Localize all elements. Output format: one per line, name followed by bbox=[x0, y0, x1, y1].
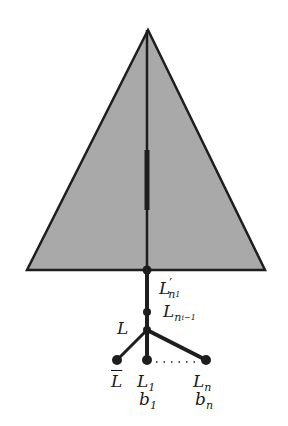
label-b-n: bn bbox=[195, 391, 213, 408]
label-L-1: L1 bbox=[137, 373, 155, 390]
edge-to-L-n bbox=[147, 330, 206, 360]
label-b-1: b1 bbox=[139, 391, 157, 408]
label-L: L bbox=[117, 320, 128, 337]
node-L-ni-minus-1 bbox=[143, 308, 151, 316]
node-base bbox=[143, 266, 152, 275]
node-L-bar bbox=[112, 355, 122, 365]
label-L-ni-minus-1: Lni−1 bbox=[163, 303, 196, 320]
node-L-1 bbox=[142, 355, 152, 365]
node-L bbox=[143, 326, 151, 334]
label-L-n: Ln bbox=[193, 373, 211, 390]
node-L-n bbox=[201, 355, 211, 365]
label-L-prime-n1: L′n1 bbox=[159, 280, 180, 297]
label-L-bar: L bbox=[111, 373, 122, 390]
tree-diagram bbox=[0, 0, 288, 426]
